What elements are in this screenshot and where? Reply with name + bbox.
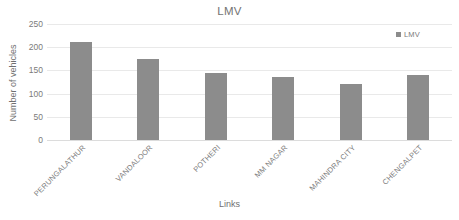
bar-slot	[250, 24, 318, 140]
y-tick-label-150: 150	[29, 65, 43, 75]
bar[interactable]	[340, 84, 362, 140]
plot-area: 250 200 150 100 50 0	[47, 24, 452, 140]
bar[interactable]	[407, 75, 429, 140]
bar-group	[47, 24, 452, 140]
bar-slot	[317, 24, 385, 140]
y-tick-label-250: 250	[29, 19, 43, 29]
y-tick-label-200: 200	[29, 42, 43, 52]
bar-slot	[182, 24, 250, 140]
x-tick-label: CHENGALPET	[381, 143, 425, 187]
x-tick-slot: CHENGALPET	[385, 141, 453, 197]
x-tick-slot: MM NAGAR	[250, 141, 318, 197]
y-axis-title: Number of vehicles	[6, 35, 20, 131]
bar[interactable]	[272, 77, 294, 140]
bar-slot	[115, 24, 183, 140]
x-axis-labels: PERUNGALATHUR VANDALOOR POTHERI MM NAGAR…	[47, 141, 452, 197]
y-tick-label-100: 100	[29, 89, 43, 99]
x-tick-label: POTHERI	[191, 143, 222, 174]
x-tick-slot: MAHINDRA CITY	[317, 141, 385, 197]
x-axis-title: Links	[0, 199, 459, 209]
chart-title: LMV	[0, 5, 459, 17]
chart-container: LMV LMV Number of vehicles 250 200 150 1…	[0, 0, 459, 220]
bar[interactable]	[70, 42, 92, 140]
y-axis-title-text: Number of vehicles	[8, 44, 18, 121]
x-tick-slot: VANDALOOR	[115, 141, 183, 197]
x-tick-slot: PERUNGALATHUR	[47, 141, 115, 197]
x-tick-label: MM NAGAR	[253, 143, 290, 180]
bar-slot	[385, 24, 453, 140]
bar-slot	[47, 24, 115, 140]
x-tick-label: PERUNGALATHUR	[32, 143, 87, 198]
bar[interactable]	[137, 59, 159, 140]
x-tick-label: VANDALOOR	[114, 143, 155, 184]
bar[interactable]	[205, 73, 227, 140]
y-tick-label-0: 0	[38, 135, 43, 145]
y-tick-label-50: 50	[34, 112, 43, 122]
x-tick-slot: POTHERI	[182, 141, 250, 197]
